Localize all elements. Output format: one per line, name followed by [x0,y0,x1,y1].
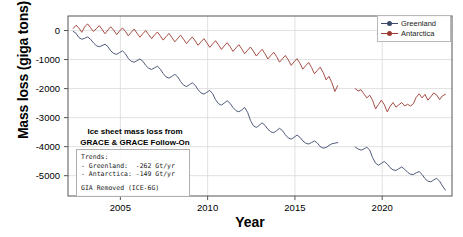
y-tick-label: -2000 [20,83,60,94]
trend-box-footer: GIA Removed (ICE-6G) [81,184,185,193]
x-tick-label: 2020 [362,202,402,213]
annotation-title: Ice sheet mass loss from GRACE & GRACE F… [76,126,194,148]
y-tick-label: -3000 [20,112,60,123]
y-tick-label: -4000 [20,141,60,152]
legend-item-greenland: Greenland [381,18,447,28]
trend-line-header: Trends: [81,153,185,162]
legend-item-antarctica: Antarctica [381,28,447,38]
chart-legend: Greenland Antarctica [377,15,451,42]
x-tick-label: 2005 [100,202,140,213]
x-axis-label: Year [190,214,310,230]
legend-label-antarctica: Antarctica [401,29,434,38]
legend-swatch-antarctica [381,29,398,38]
annotation-title-line-2: GRACE & GRACE Follow-On [76,137,194,148]
x-tick-label: 2015 [275,202,315,213]
legend-label-greenland: Greenland [401,19,436,28]
annotation-title-line-1: Ice sheet mass loss from [76,126,194,137]
trend-line-antarctica: - Antarctica: -149 Gt/yr [81,170,185,179]
legend-swatch-greenland [381,19,398,28]
y-tick-label: -1000 [20,54,60,65]
chart-figure: Mass loss (giga tons) Year 0-1000-2000-3… [0,0,463,237]
x-tick-label: 2010 [188,202,228,213]
trends-annotation-box: Trends: - Greenland: -262 Gt/yr - Antarc… [76,149,190,197]
y-tick-label: -5000 [20,170,60,181]
trend-line-greenland: - Greenland: -262 Gt/yr [81,162,185,171]
y-tick-label: 0 [20,25,60,36]
